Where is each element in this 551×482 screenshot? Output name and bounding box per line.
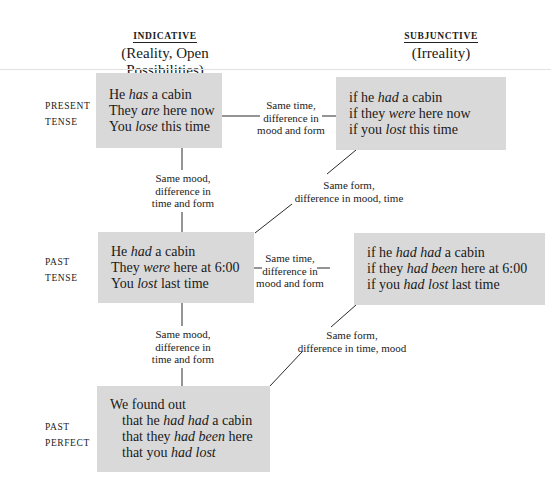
past-perfect-box: We found out that he had had a cabin tha… [97,386,270,472]
note-present-vertical: Same mood, difference in time and form [148,172,218,210]
note-line: difference in mood, time [284,192,414,205]
subjunctive-subtitle: (Irreality) [366,45,516,62]
row-label-past-perfect: PAST PERFECT [45,419,90,451]
note-line: Same mood, [148,172,218,185]
box-line: He had a cabin [111,244,254,260]
box-line: if he had a cabin [349,90,506,106]
indicative-title: INDICATIVE [133,31,196,43]
note-line: Same time, [254,252,326,265]
row-label-past: PAST TENSE [45,254,78,286]
note-line: Same form, [284,179,414,192]
note-line: Same mood, [148,328,218,341]
row-label-present-line1: PRESENT [45,98,90,114]
box-line: You lost last time [111,276,254,292]
subjunctive-header: SUBJUNCTIVE (Irreality) [366,24,516,62]
row-label-past-perfect-line1: PAST [45,419,90,435]
note-line: Same form, [287,329,417,342]
row-label-past-perfect-line2: PERFECT [45,435,90,451]
box-line: You lose this time [109,119,222,135]
note-past-diagonal: Same form, difference in time, mood [287,329,417,354]
box-line: We found out [110,397,270,413]
note-line: time and form [148,353,218,366]
note-line: difference in [148,341,218,354]
note-past-horizontal: Same time, difference in mood and form [254,252,326,290]
note-line: difference in [255,112,327,125]
header-divider [0,69,551,70]
box-line: He has a cabin [109,87,222,103]
note-line: difference in [254,265,326,278]
box-line: that they had been here [110,429,270,445]
row-label-present-line2: TENSE [45,114,90,130]
note-past-vertical: Same mood, difference in time and form [148,328,218,366]
box-line: if you had lost last time [367,277,545,293]
note-present-horizontal: Same time, difference in mood and form [255,99,327,137]
indicative-subtitle-1: (Reality, Open [80,45,250,62]
row-label-present: PRESENT TENSE [45,98,90,130]
box-line: if you lost this time [349,122,506,138]
note-present-diagonal: Same form, difference in mood, time [284,179,414,204]
row-label-past-line1: PAST [45,254,78,270]
box-line: that he had had a cabin [110,413,270,429]
past-subjunctive-box: if he had had a cabin if they had been h… [354,233,545,305]
present-subjunctive-box: if he had a cabin if they were here now … [336,77,506,150]
note-line: difference in time, mood [287,342,417,355]
note-line: time and form [148,197,218,210]
note-line: Same time, [255,99,327,112]
indicative-header: INDICATIVE (Reality, Open Possibilities) [80,24,250,79]
subjunctive-title: SUBJUNCTIVE [404,31,478,43]
box-line: They were here at 6:00 [111,260,254,276]
box-line: They are here now [109,103,222,119]
box-line: if they were here now [349,106,506,122]
note-line: mood and form [255,124,327,137]
present-indicative-box: He has a cabin They are here now You los… [96,73,222,148]
box-line: if he had had a cabin [367,245,545,261]
row-label-past-line2: TENSE [45,270,78,286]
box-line: if they had been here at 6:00 [367,261,545,277]
note-line: difference in [148,185,218,198]
note-line: mood and form [254,277,326,290]
box-line: that you had lost [110,445,270,461]
past-indicative-box: He had a cabin They were here at 6:00 Yo… [98,232,254,303]
